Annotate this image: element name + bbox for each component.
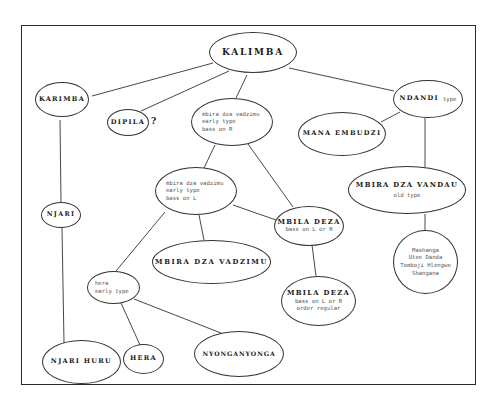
node-title: DIPILA	[111, 119, 145, 127]
node-title: MBILA DEZA	[287, 289, 350, 297]
node-line: early type	[166, 187, 200, 195]
node-karimba[interactable]: KARIMBA	[35, 82, 89, 117]
node-line: hera	[95, 280, 108, 288]
node-line: Tomboji Hlengwe	[400, 262, 451, 270]
node-title: HERA	[130, 355, 157, 363]
node-title: MBILA DEZA	[277, 218, 340, 226]
node-line: early type	[95, 288, 129, 296]
node-line: bass on R	[202, 126, 232, 134]
node-hera[interactable]: HERA	[123, 344, 164, 374]
node-mbila-deza-1[interactable]: MBILA DEZA bass on L or R	[274, 206, 344, 246]
node-title: KARIMBA	[39, 96, 85, 104]
node-line: bass on L or R	[295, 298, 342, 306]
node-line: old type	[394, 192, 421, 200]
node-njari-huru[interactable]: NJARI HURU	[42, 340, 121, 384]
node-mana-embudzi[interactable]: MANA EMBUDZI	[298, 112, 386, 156]
node-vandau-group[interactable]: Mashanga Utee Danda Tomboji Hlengwe Shan…	[393, 230, 458, 294]
node-title: NJARI	[47, 211, 76, 219]
question-mark: ?	[151, 116, 156, 126]
node-mbira-bass-l[interactable]: mbira dza vadzimu early type bass on L	[155, 167, 237, 215]
node-line: mbira dza vadzimu	[202, 111, 259, 119]
node-mbila-deza-2[interactable]: MBILA DEZA bass on L or R order regular	[281, 276, 356, 326]
node-title: NJARI HURU	[51, 358, 112, 366]
node-title: NYONGANYONGA	[202, 350, 275, 357]
node-title: MANA EMBUDZI	[303, 130, 382, 138]
node-line: early type	[202, 118, 236, 126]
node-title: MBIRA DZA VADZIMU	[155, 258, 268, 266]
node-mbira-bass-r[interactable]: mbira dza vadzimu early type bass on R	[191, 98, 273, 146]
node-line: bass on L or R	[285, 226, 332, 234]
node-line: Shangana	[412, 270, 439, 278]
node-mbira-dza-vadzimu[interactable]: MBIRA DZA VADZIMU	[152, 240, 271, 284]
node-njari[interactable]: NJARI	[41, 202, 81, 228]
node-subtitle: type	[443, 96, 456, 102]
node-ndandi[interactable]: NDANDI type	[393, 80, 463, 118]
node-hera-early[interactable]: hera early type	[87, 271, 140, 304]
node-line: bass on L	[166, 195, 196, 203]
node-title: KALIMBA	[222, 47, 284, 58]
node-kalimba[interactable]: KALIMBA	[209, 32, 297, 73]
node-line: Utee Danda	[409, 254, 443, 262]
node-title: MBIRA DZA VANDAU	[356, 181, 458, 189]
node-title: NDANDI	[400, 95, 440, 103]
node-nyonganyonga[interactable]: NYONGANYONGA	[194, 331, 284, 377]
node-line: order regular	[297, 305, 341, 313]
node-line: mbira dza vadzimu	[166, 180, 223, 188]
node-line: Mashanga	[412, 247, 439, 255]
kalimba-family-diagram: KALIMBA KARIMBA DIPILA ? mbira dza vadzi…	[0, 0, 494, 403]
node-dipila[interactable]: DIPILA	[107, 109, 149, 136]
node-mbira-dza-vandau[interactable]: MBIRA DZA VANDAU old type	[348, 166, 466, 214]
